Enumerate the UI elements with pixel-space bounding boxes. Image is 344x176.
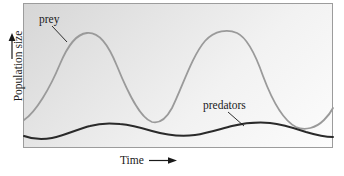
predators-series-label: predators (203, 99, 246, 111)
prey-leader-line (52, 26, 67, 42)
chart-canvas (0, 0, 344, 176)
x-axis-title-group: Time (120, 154, 177, 166)
x-axis-title: Time (120, 154, 144, 166)
chart-figure: Population size Time prey predators (0, 0, 344, 176)
x-axis-arrow-icon (149, 156, 177, 165)
prey-curve (24, 31, 333, 129)
y-axis-title: Population size (12, 6, 24, 126)
predators-leader-line (228, 112, 244, 126)
predators-curve (24, 123, 333, 139)
prey-series-label: prey (39, 13, 59, 25)
